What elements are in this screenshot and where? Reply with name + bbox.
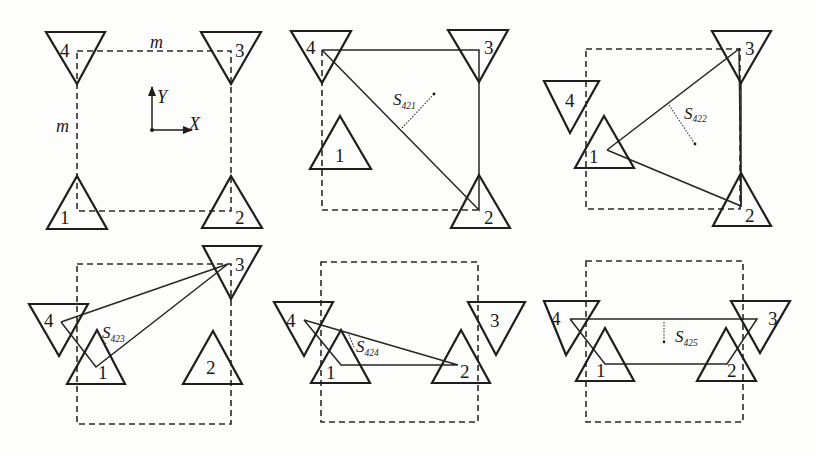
support-polygon-outline: [607, 49, 741, 206]
label-1: 1: [326, 362, 336, 383]
coordinate-axes-icon: Y X: [150, 87, 201, 134]
panel-6-area-s425: 4 3 1 2 S425: [544, 261, 790, 422]
panel-3-area-s422: 3 4 1 2 S422: [544, 31, 771, 226]
label-4: 4: [44, 310, 54, 331]
dimension-label-top: m: [150, 32, 163, 52]
label-4: 4: [306, 37, 316, 58]
support-triangle-1: [575, 116, 634, 168]
label-4: 4: [286, 310, 296, 331]
area-label-s423: S423: [102, 323, 125, 344]
label-3: 3: [484, 37, 494, 58]
reference-square: [77, 264, 231, 424]
label-2: 2: [235, 207, 245, 228]
label-4: 4: [565, 90, 575, 111]
reference-square: [77, 51, 231, 211]
support-triangle-3: [203, 246, 261, 299]
label-2: 2: [727, 360, 737, 381]
support-triangle-2: [451, 175, 510, 228]
label-4: 4: [60, 40, 70, 61]
label-1: 1: [60, 207, 70, 228]
support-polygon-figure: 4 3 1 2 m m Y X 4 3 1 2 S421: [0, 0, 816, 455]
area-label-s425: S425: [675, 327, 698, 348]
label-4: 4: [551, 308, 561, 329]
axis-x-label: X: [188, 114, 201, 134]
label-2: 2: [484, 207, 494, 228]
area-label-s421: S421: [393, 90, 416, 111]
label-3: 3: [235, 254, 245, 275]
reference-square: [586, 49, 740, 209]
axis-y-label: Y: [157, 87, 169, 107]
support-triangle-4: [46, 32, 105, 84]
label-3: 3: [745, 38, 755, 59]
support-triangle-4: [29, 304, 88, 356]
support-triangle-3: [712, 31, 771, 83]
label-2: 2: [745, 205, 755, 226]
label-1: 1: [589, 146, 599, 167]
panel-5-area-s424: 4 3 1 2 S424: [274, 262, 525, 422]
panel-4-area-s423: 3 4 1 2 S423: [29, 246, 261, 424]
support-polygon-outline: [304, 320, 458, 365]
label-1: 1: [98, 362, 108, 383]
support-triangle-2: [202, 176, 262, 228]
label-2: 2: [206, 357, 216, 378]
support-triangle-4: [274, 302, 333, 356]
panel-1-initial-layout: 4 3 1 2 m m Y X: [46, 32, 262, 229]
label-3: 3: [768, 308, 778, 329]
label-3: 3: [490, 310, 500, 331]
support-polygon-outline: [322, 50, 479, 210]
support-triangle-3: [448, 30, 508, 82]
area-label-s422: S422: [684, 104, 707, 124]
support-triangle-4: [291, 31, 351, 83]
support-triangle-2: [713, 173, 771, 226]
label-3: 3: [235, 40, 245, 61]
label-2: 2: [460, 361, 470, 382]
dimension-label-left: m: [56, 116, 69, 136]
label-1: 1: [335, 145, 345, 166]
label-1: 1: [596, 360, 606, 381]
area-leader-line: [402, 94, 434, 128]
panel-2-area-s421: 4 3 1 2 S421: [291, 30, 510, 228]
